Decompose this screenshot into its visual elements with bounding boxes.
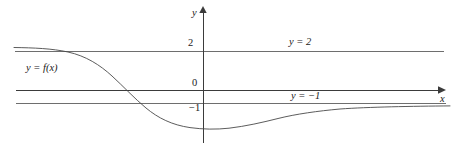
graph-canvas (0, 0, 462, 153)
y-tick-label-minus-1: −1 (189, 103, 200, 114)
function-curve (14, 48, 450, 130)
asymptote-lower-label: y = −1 (291, 91, 320, 102)
y-tick-label-0: 0 (192, 78, 197, 89)
y-axis-label: y (192, 8, 197, 19)
x-axis-label: x (440, 94, 445, 105)
function-graph-figure: y x 2 0 −1 y = f(x) y = 2 y = −1 (0, 0, 462, 153)
y-tick-label-2: 2 (188, 38, 193, 49)
asymptote-upper-label: y = 2 (289, 37, 311, 48)
y-axis-arrowhead (199, 6, 206, 13)
curve-annotation-label: y = f(x) (26, 63, 58, 74)
